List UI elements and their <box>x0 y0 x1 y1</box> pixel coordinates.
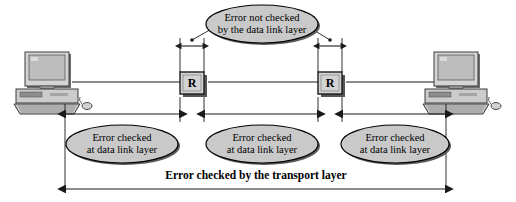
transport-layer-caption: Error checked by the transport layer <box>165 169 346 182</box>
callout-top: Error not checked by the data link layer <box>206 5 320 45</box>
callout-top-line2: by the data link layer <box>218 24 307 35</box>
router-right-label: R <box>326 76 335 90</box>
callout-middle: Error checked at data link layer <box>206 125 320 165</box>
router-left: R <box>180 72 207 97</box>
callout-left-line1: Error checked <box>92 132 152 143</box>
network-error-checking-diagram: R R Error not checked <box>0 0 516 202</box>
router-right: R <box>318 72 345 97</box>
left-workstation-icon <box>14 52 92 114</box>
callout-right-line2: at data link layer <box>360 144 431 155</box>
callout-left: Error checked at data link layer <box>66 125 180 165</box>
router-left-internal-span <box>180 38 204 72</box>
router-right-internal-span <box>318 38 342 72</box>
callout-middle-line1: Error checked <box>232 132 292 143</box>
callout-middle-line2: at data link layer <box>227 144 298 155</box>
callout-left-line2: at data link layer <box>87 144 158 155</box>
right-workstation-icon <box>423 52 501 114</box>
router-left-label: R <box>188 76 197 90</box>
callout-right: Error checked at data link layer <box>341 125 451 165</box>
callout-right-line1: Error checked <box>365 132 425 143</box>
diagram-canvas: R R Error not checked <box>0 0 516 202</box>
callout-top-line1: Error not checked <box>224 12 300 23</box>
